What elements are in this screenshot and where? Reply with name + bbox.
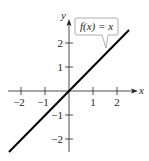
y-tick-label: −2 xyxy=(51,133,63,145)
graph-figure: x y −2 −1 1 2 2 1 −1 −2 f(x) = x xyxy=(0,0,149,161)
x-tick-label: −1 xyxy=(37,96,49,108)
x-axis-label: x xyxy=(138,84,144,96)
callout-label: f(x) = x xyxy=(80,20,113,33)
x-tick-label: 1 xyxy=(90,96,96,108)
function-callout: f(x) = x xyxy=(75,18,118,48)
x-tick-label: −2 xyxy=(13,96,25,108)
y-axis xyxy=(65,19,73,152)
y-axis-label: y xyxy=(60,9,66,21)
y-tick-label: 1 xyxy=(58,61,64,73)
y-tick-label: 2 xyxy=(58,37,64,49)
x-tick-label: 2 xyxy=(114,96,120,108)
y-tick-label: −1 xyxy=(51,109,63,121)
